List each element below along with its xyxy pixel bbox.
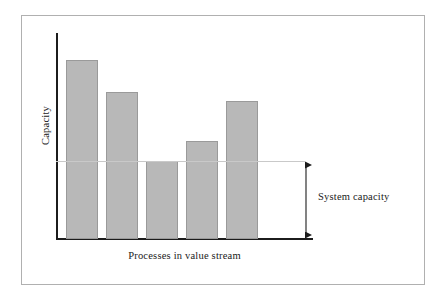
chart-plot-area: Capacity Processes in value stream Syste… — [22, 16, 426, 286]
bar — [186, 141, 218, 239]
system-capacity-label: System capacity — [318, 191, 390, 202]
system-capacity-reference-line — [56, 161, 306, 162]
x-axis-title: Processes in value stream — [56, 250, 313, 261]
y-axis-title: Capacity — [40, 86, 51, 166]
bar — [146, 161, 178, 239]
bar — [66, 60, 98, 239]
figure-frame: Capacity Processes in value stream Syste… — [21, 15, 425, 285]
bar — [226, 101, 258, 239]
system-capacity-arrow-icon — [298, 159, 314, 241]
bar-series — [22, 16, 426, 286]
bar — [106, 92, 138, 239]
